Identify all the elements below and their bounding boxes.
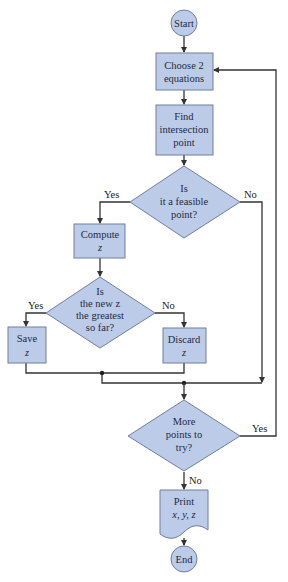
compute-line2: z: [97, 242, 102, 253]
greatest-yes-label: Yes: [28, 300, 43, 311]
end-label: End: [176, 554, 194, 565]
more-yes-label: Yes: [252, 423, 267, 434]
choose-line2: equations: [164, 73, 204, 84]
start-label: Start: [174, 18, 194, 29]
greatest-line3: the greatest: [76, 310, 124, 321]
save-line2: z: [24, 347, 29, 358]
print-line2: x, y, z: [171, 509, 195, 520]
save-line1: Save: [17, 333, 38, 344]
more-line2: points to: [166, 429, 202, 440]
end-node: End: [171, 546, 197, 572]
greatest-line2: the new z: [80, 298, 121, 309]
edge-feasible-yes: [100, 202, 130, 223]
feasible-yes-label: Yes: [104, 189, 119, 200]
feasible-line3: point?: [171, 209, 198, 220]
choose-line1: Choose 2: [164, 60, 203, 71]
more-points-decision-node: More points to try?: [128, 400, 240, 471]
flowchart: Start Choose 2 equations Find intersecti…: [0, 0, 288, 582]
feasible-decision-node: Is it a feasible point?: [130, 166, 240, 238]
greatest-decision-node: Is the new z the greatest so far?: [46, 277, 155, 348]
start-node: Start: [171, 10, 197, 36]
choose-equations-node: Choose 2 equations: [156, 53, 213, 90]
edge-greatest-yes: [26, 313, 46, 326]
more-line1: More: [173, 416, 196, 427]
more-line3: try?: [176, 442, 193, 453]
edge-more-yes: [214, 70, 276, 436]
find-line2: intersection: [160, 124, 210, 135]
feasible-line2: it a feasible: [160, 196, 209, 207]
more-no-label: No: [189, 475, 202, 486]
print-output-node: Print x, y, z: [160, 490, 208, 538]
feasible-line1: Is: [180, 183, 188, 194]
discard-z-node: Discard z: [163, 328, 206, 363]
compute-line1: Compute: [81, 229, 120, 240]
discard-line1: Discard: [168, 334, 201, 345]
edge-merge-down: [102, 373, 262, 383]
edge-greatest-no: [155, 313, 184, 327]
junction-dot: [100, 371, 104, 375]
feasible-no-label: No: [244, 189, 257, 200]
compute-z-node: Compute z: [74, 224, 125, 258]
discard-line2: z: [181, 347, 186, 358]
greatest-no-label: No: [162, 300, 175, 311]
save-z-node: Save z: [8, 327, 46, 363]
greatest-line4: so far?: [86, 322, 115, 333]
print-line1: Print: [174, 496, 195, 507]
edge-feasible-no: [240, 202, 262, 382]
find-line1: Find: [174, 111, 194, 122]
greatest-line1: Is: [96, 286, 104, 297]
edge-save-merge: [26, 363, 184, 373]
find-line3: point: [173, 137, 195, 148]
find-intersection-node: Find intersection point: [156, 105, 213, 155]
